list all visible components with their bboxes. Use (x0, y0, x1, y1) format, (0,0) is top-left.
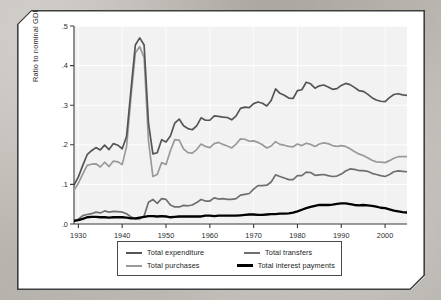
y-tick-label: .3 (62, 101, 68, 110)
x-tick-label: 1930 (70, 231, 87, 240)
y-tick-label: .5 (62, 22, 68, 31)
x-tick-label: 1970 (245, 231, 262, 240)
legend-item-total-purchases[interactable]: Total purchases (126, 261, 237, 270)
x-tick-label: 1960 (202, 231, 219, 240)
legend-swatch-total-transfers (244, 252, 260, 254)
y-tick-label: .1 (62, 180, 68, 189)
legend-row-2: Total purchases Total interest payments (126, 259, 335, 272)
figure-card: .0.1.2.3.4.51930194019501960197019801990… (17, 10, 425, 290)
legend-item-total-interest-payments[interactable]: Total interest payments (237, 261, 335, 270)
y-tick-label: .2 (62, 140, 68, 149)
x-tick-label: 1990 (333, 231, 350, 240)
legend-swatch-total-expenditure (126, 252, 142, 254)
legend-row-1: Total expenditure Total transfers (126, 246, 335, 259)
legend-label-total-interest-payments: Total interest payments (258, 261, 335, 270)
x-tick-label: 1950 (158, 231, 175, 240)
y-tick-label: .0 (62, 220, 68, 229)
legend-item-total-expenditure[interactable]: Total expenditure (126, 248, 244, 257)
x-tick-label: 1980 (289, 231, 306, 240)
y-axis-title: Ratio to nominal GDP (31, 8, 40, 82)
x-tick-label: 2000 (377, 231, 394, 240)
y-tick-label: .4 (62, 61, 68, 70)
chart-legend: Total expenditure Total transfers Total … (117, 241, 342, 276)
legend-swatch-total-purchases (126, 265, 142, 267)
legend-label-total-purchases: Total purchases (147, 261, 200, 270)
legend-label-total-transfers: Total transfers (265, 248, 312, 257)
legend-label-total-expenditure: Total expenditure (147, 248, 204, 257)
x-tick-label: 1940 (114, 231, 131, 240)
legend-swatch-total-interest-payments (237, 264, 253, 267)
legend-item-total-transfers[interactable]: Total transfers (244, 248, 312, 257)
